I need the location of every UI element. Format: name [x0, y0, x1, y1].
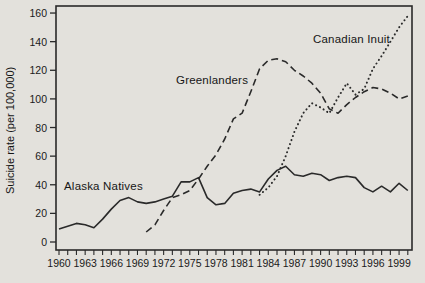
- x-tick-label: 1981: [230, 257, 254, 269]
- y-tick-label: 60: [35, 150, 47, 162]
- x-tick-label: 1972: [152, 257, 176, 269]
- y-tick-label: 120: [29, 64, 47, 76]
- y-tick-label: 40: [35, 179, 47, 191]
- line-chart-canvas: 0204060801001201401601960196319661969197…: [0, 0, 425, 283]
- y-tick-label: 140: [29, 36, 47, 48]
- x-tick-label: 1975: [178, 257, 202, 269]
- x-tick-label: 1993: [335, 257, 359, 269]
- y-tick-label: 100: [29, 93, 47, 105]
- series-line-alaska-natives: [59, 166, 408, 229]
- x-tick-label: 1996: [361, 257, 385, 269]
- suicide-rate-chart-figure: Suicide rate (per 100,000) Alaska Native…: [0, 0, 425, 283]
- x-tick-label: 1999: [387, 257, 411, 269]
- series-line-greenlanders: [146, 59, 408, 232]
- y-tick-label: 160: [29, 7, 47, 19]
- plot-frame: [56, 6, 412, 250]
- x-tick-label: 1990: [309, 257, 333, 269]
- y-tick-label: 0: [41, 236, 47, 248]
- y-tick-label: 20: [35, 207, 47, 219]
- x-tick-label: 1963: [73, 257, 97, 269]
- x-tick-label: 1987: [283, 257, 307, 269]
- x-tick-label: 1978: [204, 257, 228, 269]
- x-tick-label: 1969: [126, 257, 150, 269]
- x-tick-label: 1960: [47, 257, 71, 269]
- y-tick-label: 80: [35, 122, 47, 134]
- x-tick-label: 1966: [100, 257, 124, 269]
- x-tick-label: 1984: [257, 257, 281, 269]
